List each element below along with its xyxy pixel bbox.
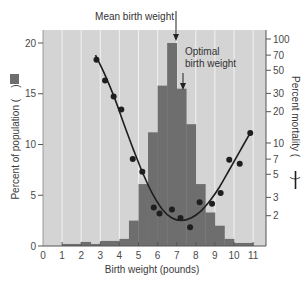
y-right-tick-label: 7: [273, 154, 279, 165]
x-tick-label: 1: [59, 250, 65, 261]
optimal-label-line2: birth weight: [185, 58, 236, 69]
mortality-point: [187, 224, 193, 230]
y-right-tick-label: 10: [273, 138, 285, 149]
y-left-tick-label: 20: [25, 38, 37, 49]
histogram-bar: [215, 226, 225, 246]
mortality-point: [226, 157, 232, 163]
svg-text:Percent of population ( ): Percent of population ( ): [10, 84, 21, 199]
histogram-bar: [139, 184, 149, 246]
mortality-point: [157, 210, 163, 216]
y-right-tick-label: 100: [273, 34, 290, 45]
histogram-bar: [129, 221, 139, 246]
y-right-tick-label: 5: [273, 169, 279, 180]
left-y-axis-ticks: 05101520: [25, 38, 43, 252]
optimal-label-line1: Optimal: [185, 46, 219, 57]
left-y-axis-title: Percent of population ( ): [10, 74, 21, 200]
mean-birth-weight-label: Mean birth weight: [95, 11, 174, 22]
mortality-point: [247, 130, 253, 136]
mortality-point: [237, 161, 243, 167]
mortality-point: [102, 77, 108, 83]
histogram-bar: [81, 242, 91, 246]
birth-weight-chart: 01234567891011 05101520 2357102030507010…: [0, 0, 307, 286]
x-tick-label: 5: [136, 250, 142, 261]
x-tick-label: 7: [174, 250, 180, 261]
x-tick-label: 2: [78, 250, 84, 261]
mortality-point: [209, 201, 215, 207]
y-left-tick-label: 10: [25, 139, 37, 150]
mortality-point: [169, 206, 175, 212]
mortality-point: [139, 169, 145, 175]
x-tick-label: 6: [155, 250, 161, 261]
mortality-point: [197, 199, 203, 205]
histogram-bar: [100, 241, 119, 246]
right-y-axis-ticks: 23571020305070100: [266, 34, 290, 222]
y-right-tick-label: 2: [273, 210, 279, 221]
y-left-tick-label: 5: [30, 190, 36, 201]
left-y-axis-title-text: Percent of population (: [10, 98, 21, 199]
y-right-tick-label: 30: [273, 88, 285, 99]
y-right-tick-label: 3: [273, 192, 279, 203]
mortality-point: [218, 190, 224, 196]
histogram-bar: [177, 89, 187, 246]
x-tick-label: 9: [212, 250, 218, 261]
y-left-tick-label: 15: [25, 88, 37, 99]
bar-legend-swatch: [10, 74, 19, 84]
mortality-point: [93, 57, 99, 63]
right-y-axis-title-text: Percent mortality (: [290, 76, 301, 158]
y-right-tick-label: 20: [273, 106, 285, 117]
x-axis-title: Birth weight (pounds): [105, 264, 200, 275]
histogram-bar: [158, 86, 168, 246]
histogram-bar: [205, 213, 215, 246]
left-y-axis-title-close: ): [10, 84, 21, 87]
histogram-bar: [224, 239, 234, 246]
y-right-tick-label: 70: [273, 50, 285, 61]
y-left-tick-label: 0: [30, 241, 36, 252]
y-right-tick-label: 50: [273, 65, 285, 76]
mortality-point: [151, 204, 157, 210]
svg-text:Percent mortality ( ): Percent mortality ( ): [290, 76, 301, 180]
x-tick-label: 3: [98, 250, 104, 261]
mortality-point: [130, 156, 136, 162]
x-tick-label: 0: [40, 250, 46, 261]
x-tick-label: 8: [193, 250, 199, 261]
mortality-point: [118, 106, 124, 112]
mortality-point: [111, 93, 117, 99]
x-tick-label: 11: [248, 250, 259, 261]
x-tick-label: 10: [228, 250, 240, 261]
x-tick-label: 4: [117, 250, 123, 261]
right-y-axis-title: Percent mortality ( ): [290, 76, 301, 189]
mortality-point: [178, 215, 184, 221]
histogram-bar: [119, 239, 129, 246]
